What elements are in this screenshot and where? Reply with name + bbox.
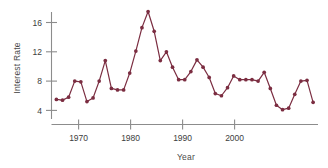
data-point (73, 79, 77, 83)
x-tick-label-1990: 1990 (173, 133, 192, 143)
y-tick-label-4: 4 (37, 106, 42, 116)
data-point (195, 58, 199, 62)
series-line-interest-rate (56, 12, 313, 110)
data-point (262, 70, 266, 74)
data-point (61, 98, 65, 102)
interest-rate-chart: 16 12 8 4 1970 1980 1990 2000 Year Inter… (0, 0, 328, 168)
y-tick-label-12: 12 (33, 47, 43, 57)
data-point (177, 78, 181, 82)
data-point (183, 78, 187, 82)
data-point (201, 65, 205, 69)
data-point (146, 10, 150, 14)
data-point (207, 76, 211, 80)
data-point (55, 98, 59, 102)
data-point (244, 78, 248, 82)
data-point (220, 94, 224, 98)
x-tick-label-1970: 1970 (69, 133, 88, 143)
x-tick-label-2000: 2000 (225, 133, 244, 143)
data-point (158, 59, 162, 63)
y-tick-label-16: 16 (33, 18, 43, 28)
data-point (171, 65, 175, 69)
y-tick-label-8: 8 (37, 76, 42, 86)
data-point (97, 79, 101, 83)
x-axis-label: Year (177, 152, 195, 162)
data-point (134, 49, 138, 53)
data-point (91, 96, 95, 100)
data-point (140, 26, 144, 30)
data-point (165, 50, 169, 54)
chart-canvas: 16 12 8 4 1970 1980 1990 2000 Year Inter… (0, 0, 328, 168)
data-point (226, 86, 230, 90)
data-point (79, 80, 83, 84)
data-point (293, 92, 297, 96)
data-point (213, 92, 217, 96)
data-point (116, 88, 120, 92)
data-point (305, 79, 309, 83)
data-point (238, 78, 242, 82)
data-point (67, 95, 71, 99)
data-point (189, 70, 193, 74)
data-point (110, 87, 114, 91)
data-point (299, 79, 303, 83)
data-point (268, 87, 272, 91)
data-point (256, 79, 260, 83)
data-point (152, 29, 156, 33)
series-group (55, 10, 315, 112)
series-markers-interest-rate (55, 10, 315, 112)
x-tick-label-1980: 1980 (121, 133, 140, 143)
data-point (287, 106, 291, 110)
data-point (281, 108, 285, 112)
data-point (103, 59, 107, 63)
data-point (275, 103, 279, 107)
data-point (128, 71, 132, 75)
data-point (122, 88, 126, 92)
y-axis-label: Interest Rate (12, 42, 22, 93)
data-point (250, 78, 254, 82)
data-point (85, 100, 89, 104)
data-point (232, 74, 236, 78)
data-point (311, 100, 315, 104)
